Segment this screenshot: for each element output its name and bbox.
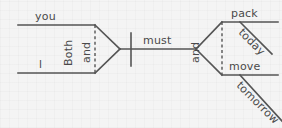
wedge-right-upper	[196, 22, 222, 49]
diagram-lines	[0, 0, 282, 128]
sentence-diagram-canvas: you I Both and must and pack today move …	[0, 0, 282, 128]
modifier-slant-1	[240, 22, 272, 54]
wedge-left-upper	[95, 25, 120, 49]
wedge-left-lower	[95, 49, 120, 73]
modifier-slant-2	[240, 75, 282, 121]
wedge-right-lower	[196, 49, 222, 75]
